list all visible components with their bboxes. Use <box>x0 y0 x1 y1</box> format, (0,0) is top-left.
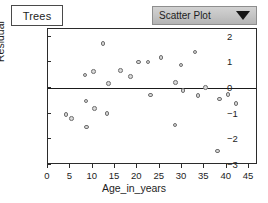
x-axis-tick-label: 45 <box>243 170 254 181</box>
data-point <box>215 149 220 154</box>
y-axis-tick-mark <box>47 138 51 139</box>
data-point <box>83 73 88 78</box>
data-point <box>196 93 201 98</box>
x-axis-title: Age_in_years <box>0 182 268 194</box>
x-axis-tick-label: 35 <box>198 170 209 181</box>
x-axis-tick-label: 20 <box>131 170 142 181</box>
data-point <box>159 55 164 60</box>
x-axis-tick-mark <box>92 164 93 168</box>
data-point <box>84 125 89 130</box>
x-axis-tick-mark <box>47 164 48 168</box>
y-axis-tick-label: −1 <box>227 107 268 118</box>
data-point <box>226 92 231 97</box>
x-axis-tick-mark <box>69 164 70 168</box>
x-axis-tick-label: 25 <box>153 170 164 181</box>
tab-trees-label: Trees <box>23 10 52 22</box>
data-point <box>118 68 123 73</box>
data-point <box>234 101 239 106</box>
plot-type-dropdown[interactable]: Scatter Plot <box>152 6 257 25</box>
x-axis-tick-mark <box>136 164 137 168</box>
y-axis-tick-mark <box>47 36 51 37</box>
y-axis-tick-mark <box>47 87 51 88</box>
data-point <box>64 112 69 117</box>
x-axis-tick-label: 0 <box>44 170 49 181</box>
y-axis-tick-label: 0 <box>227 82 268 93</box>
data-point <box>105 111 110 116</box>
data-point <box>148 93 153 98</box>
data-point <box>179 63 184 68</box>
x-axis-tick-mark <box>181 164 182 168</box>
data-point <box>91 69 96 74</box>
x-axis-tick-mark <box>203 164 204 168</box>
y-axis-tick-mark <box>47 113 51 114</box>
y-axis-tick-label: −2 <box>227 133 268 144</box>
data-point <box>128 74 133 79</box>
data-point <box>146 60 151 65</box>
data-point <box>69 116 74 121</box>
x-axis-tick-mark <box>114 164 115 168</box>
x-axis-tick-label: 10 <box>86 170 97 181</box>
zero-reference-line <box>48 88 256 89</box>
data-point <box>193 50 198 55</box>
data-point <box>217 97 222 102</box>
y-axis-title: Residual <box>0 21 6 62</box>
scatter-plot-window: Trees Scatter Plot Residual Age_in_years… <box>0 0 268 203</box>
plot-type-label: Scatter Plot <box>159 10 236 21</box>
data-point <box>136 60 141 65</box>
y-axis-tick-label: 1 <box>227 56 268 67</box>
data-point <box>203 85 208 90</box>
x-axis-tick-mark <box>159 164 160 168</box>
data-point <box>181 88 186 93</box>
tab-trees[interactable]: Trees <box>11 5 63 26</box>
x-axis-tick-label: 5 <box>67 170 72 181</box>
data-point <box>84 99 89 104</box>
data-point <box>101 41 106 46</box>
y-axis-tick-mark <box>47 61 51 62</box>
x-axis-tick-label: 40 <box>220 170 231 181</box>
chart-plot-frame <box>47 28 257 164</box>
x-axis-tick-label: 30 <box>176 170 187 181</box>
data-point <box>173 80 178 85</box>
x-axis-tick-mark <box>226 164 227 168</box>
chevron-down-icon <box>236 11 250 20</box>
data-point <box>92 106 97 111</box>
x-axis-tick-label: 15 <box>109 170 120 181</box>
data-point <box>106 81 111 86</box>
y-axis-tick-label: 2 <box>227 30 268 41</box>
scatter-plot-area <box>48 29 256 163</box>
x-axis-tick-mark <box>248 164 249 168</box>
data-point <box>173 123 178 128</box>
